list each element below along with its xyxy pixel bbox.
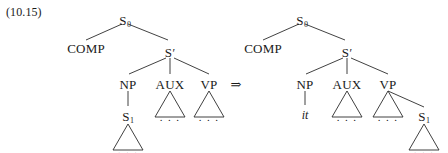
transformation-arrow: ⇒	[231, 78, 242, 91]
edge-right-s0-comp	[263, 24, 299, 40]
edge-left-sbar-vp	[174, 58, 209, 74]
node-left-s1: S1	[122, 110, 134, 123]
edge-right-s0-sbar	[305, 24, 345, 40]
terminal-expletive-it: it	[302, 109, 309, 121]
node-right-np: NP	[296, 78, 313, 91]
dots-right-aux: . . .	[337, 112, 358, 123]
edge-right-sbar-vp	[351, 58, 388, 74]
dots-right-s1: . . .	[414, 145, 435, 153]
node-right-sbar: S′	[342, 46, 352, 59]
node-right-comp: COMP	[244, 42, 282, 55]
node-left-comp: COMP	[67, 42, 105, 55]
node-right-s0: S0	[296, 14, 308, 27]
node-left-aux: AUX	[156, 78, 185, 91]
syntax-tree-figure: (10.15)	[0, 0, 448, 153]
edge-left-s0-sbar	[128, 24, 168, 40]
edge-right-vp-s1	[388, 91, 424, 107]
edge-left-sbar-np	[129, 58, 166, 74]
node-right-s1: S1	[418, 110, 430, 123]
node-right-aux: AUX	[333, 78, 362, 91]
node-left-vp: VP	[200, 78, 217, 91]
node-left-sbar: S′	[165, 46, 175, 59]
node-left-s0: S0	[119, 14, 131, 27]
dots-right-vp: . . .	[378, 112, 399, 123]
edge-left-s0-comp	[86, 24, 122, 40]
dots-left-vp: . . .	[199, 112, 220, 123]
edge-right-sbar-np	[306, 58, 343, 74]
node-right-vp: VP	[379, 78, 396, 91]
node-left-np: NP	[119, 78, 136, 91]
dots-left-s1: . . .	[118, 145, 139, 153]
dots-left-aux: . . .	[160, 112, 181, 123]
